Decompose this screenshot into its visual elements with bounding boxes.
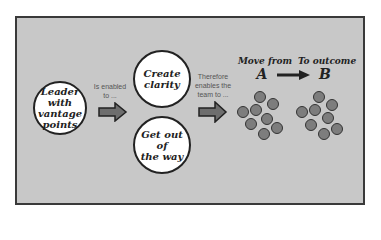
therefore-label: Therefore enables the team to ... [192, 72, 234, 99]
team-dot-b [309, 104, 321, 116]
move-from-label: Move from [235, 56, 295, 66]
team-dot-b [331, 123, 343, 135]
get-out-of-way-circle: Get out of the way [133, 116, 191, 174]
team-dot-a [245, 118, 257, 130]
team-dot-b [326, 99, 338, 111]
leader-circle: Leader with vantage points [33, 81, 87, 135]
team-dot-b [296, 106, 308, 118]
create-clarity-circle: Create clarity [133, 50, 191, 108]
to-outcome-label: To outcome [297, 56, 357, 66]
letter-a: A [252, 66, 272, 82]
team-dot-b [318, 128, 330, 140]
small-arrow-icon [277, 70, 311, 80]
leader-line3: points [43, 119, 78, 130]
arrow-right-icon [98, 102, 128, 122]
team-dot-b [322, 112, 334, 124]
team-dot-a [261, 113, 273, 125]
leader-line2: vantage [38, 108, 82, 119]
team-dot-a [267, 98, 279, 110]
team-dot-b [313, 91, 325, 103]
team-dot-a [271, 122, 283, 134]
team-dot-a [250, 104, 262, 116]
team-dot-a [258, 128, 270, 140]
letter-b: B [315, 66, 335, 82]
leader-line1: Leader with [41, 86, 80, 108]
is-enabled-label: Is enabled to ... [90, 82, 130, 100]
team-dot-b [305, 119, 317, 131]
team-dot-a [237, 106, 249, 118]
arrow-right-icon-2 [198, 101, 228, 123]
team-dot-a [254, 91, 266, 103]
